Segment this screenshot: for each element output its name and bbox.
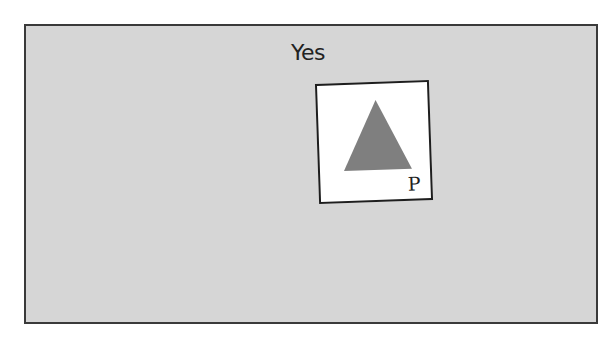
stimulus-card[interactable]: P bbox=[315, 80, 433, 204]
card-letter: P bbox=[407, 172, 421, 194]
triangle-icon bbox=[342, 99, 412, 171]
scene-frame bbox=[24, 24, 598, 324]
answer-label: Yes bbox=[291, 40, 325, 65]
